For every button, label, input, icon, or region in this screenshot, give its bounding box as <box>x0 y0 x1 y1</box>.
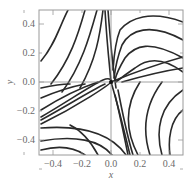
trajectory-curve <box>41 10 68 61</box>
saddle-point <box>109 80 113 84</box>
x-tick-label: −0.4 <box>44 158 62 169</box>
trajectory-curve <box>51 10 85 84</box>
y-tick-label: −0.2 <box>17 105 35 116</box>
x-tick-label: 0.0 <box>105 158 118 169</box>
x-tick-labels: −0.4 −0.2 0.0 0.2 0.4 <box>44 158 175 169</box>
phase-portrait-chart: 0.4 0.2 0.0 −0.2 −0.4 −0.4 −0.2 0.0 0.2 … <box>0 0 192 185</box>
y-tick-label: −0.4 <box>17 134 35 145</box>
trajectory-curve <box>41 148 85 155</box>
y-tick-label: 0.2 <box>23 47 36 58</box>
x-tick-label: −0.2 <box>73 158 91 169</box>
trajectory-curve <box>41 79 112 117</box>
y-tick-label: 0.0 <box>23 76 36 87</box>
x-axis-label: x <box>108 169 114 180</box>
trajectory-curve <box>41 139 112 155</box>
x-tick-label: 0.4 <box>163 158 176 169</box>
trajectory-curve <box>105 10 111 82</box>
trajectory-curve <box>169 110 183 155</box>
x-tick-label: 0.2 <box>134 158 147 169</box>
trajectory-curve <box>41 84 105 120</box>
trajectory-curve <box>41 127 126 155</box>
trajectory-curve <box>62 10 97 92</box>
y-axis-label: y <box>4 79 15 85</box>
trajectory-curve <box>80 10 103 88</box>
y-tick-label: 0.4 <box>23 18 36 29</box>
y-tick-labels: 0.4 0.2 0.0 −0.2 −0.4 <box>17 18 35 145</box>
trajectory-curve <box>116 61 183 82</box>
trajectory-curve <box>114 30 183 78</box>
trajectory-curve <box>159 90 183 155</box>
